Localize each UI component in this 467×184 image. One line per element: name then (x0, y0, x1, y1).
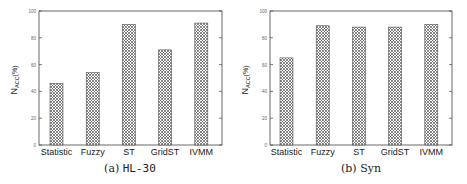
x-tick-label: Statistic (41, 147, 73, 157)
y-tick-label: 40 (262, 89, 268, 94)
x-tick-label: IVMM (420, 147, 444, 157)
y-tick-label: 80 (262, 36, 268, 41)
y-tick-label: 40 (31, 89, 37, 94)
y-tick-label: 60 (31, 63, 37, 68)
y-tick-label: 100 (28, 9, 36, 14)
bar-st (122, 24, 135, 145)
chart-panel-a: 020406080100NACC(%)StatisticFuzzySTGridS… (0, 0, 235, 184)
bar-statistic (280, 58, 293, 145)
y-axis-label: NACC(%) (240, 65, 251, 94)
x-tick-label: ST (123, 147, 135, 157)
y-tick-label: 20 (31, 116, 37, 121)
bar-fuzzy (86, 73, 99, 145)
chart-caption: (b) Syn (341, 162, 381, 175)
x-tick-label: GridST (151, 147, 180, 157)
x-tick-label: ST (353, 147, 365, 157)
bar-ivmm (195, 23, 208, 145)
x-tick-label: GridST (381, 147, 410, 157)
y-tick-label: 80 (31, 36, 37, 41)
bar-gridst (159, 50, 172, 145)
x-tick-label: IVMM (190, 147, 214, 157)
x-tick-label: Statistic (271, 147, 303, 157)
y-axis-label: NACC(%) (9, 65, 20, 94)
y-tick-label: 60 (262, 63, 268, 68)
y-tick-label: 100 (259, 9, 267, 14)
x-tick-label: Fuzzy (311, 147, 336, 157)
y-tick-label: 0 (264, 143, 267, 148)
bar-gridst (389, 27, 402, 145)
bar-fuzzy (316, 26, 329, 145)
y-tick-label: 20 (262, 116, 268, 121)
x-tick-label: Fuzzy (81, 147, 106, 157)
bar-chart-syn: 020406080100NACC(%)StatisticFuzzySTGridS… (233, 0, 467, 184)
chart-caption: (a) HL-30 (104, 162, 156, 175)
chart-panel-b: 020406080100NACC(%)StatisticFuzzySTGridS… (233, 0, 467, 184)
bar-statistic (50, 83, 63, 145)
bar-st (352, 27, 365, 145)
bar-ivmm (425, 24, 438, 145)
y-tick-label: 0 (33, 143, 36, 148)
bar-chart-hl30: 020406080100NACC(%)StatisticFuzzySTGridS… (0, 0, 235, 184)
